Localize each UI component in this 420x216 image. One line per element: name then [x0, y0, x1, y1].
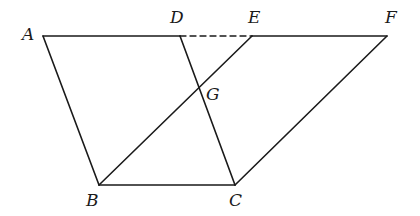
segment-be [99, 36, 252, 185]
point-label-d: D [169, 7, 184, 27]
point-label-f: F [384, 7, 398, 27]
labels-group: ADEFGBC [20, 7, 398, 210]
segment-ab [43, 36, 99, 185]
segment-dc [180, 36, 235, 185]
point-label-b: B [85, 190, 99, 210]
point-label-e: E [247, 7, 261, 27]
point-label-c: C [229, 190, 242, 210]
segments-group [43, 36, 387, 185]
point-label-g: G [206, 84, 220, 104]
point-label-a: A [20, 24, 34, 44]
segment-cf [235, 36, 387, 185]
geometry-diagram: ADEFGBC [0, 0, 420, 216]
